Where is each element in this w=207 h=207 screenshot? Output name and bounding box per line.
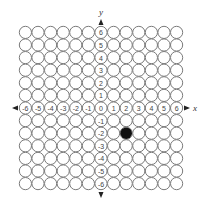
grid-cell [70,178,82,190]
grid-cell [45,140,57,152]
grid-cell [57,77,69,89]
grid-cell [158,89,170,101]
grid-cell [57,39,69,51]
grid-cell [82,77,94,89]
grid-cell [32,152,44,164]
grid-cell [82,52,94,64]
grid-cell [108,127,120,139]
grid-cell [82,140,94,152]
grid-cell [158,115,170,127]
grid-cell [32,89,44,101]
grid-cell [120,26,132,38]
grid-cell [45,89,57,101]
grid-cell [82,152,94,164]
y-tick-label: -6 [98,181,104,188]
grid-cell [45,39,57,51]
y-tick-label: -2 [98,130,104,137]
grid-cell [120,178,132,190]
grid-cell [57,52,69,64]
grid-cell [158,52,170,64]
grid-cell [57,26,69,38]
grid-cell [108,64,120,76]
grid-cell [45,26,57,38]
grid-cell [145,127,157,139]
grid-cell [120,115,132,127]
grid-cell [57,89,69,101]
y-tick-label: 2 [99,80,103,87]
grid-cell [82,89,94,101]
grid-cell [171,165,183,177]
grid-cell [70,152,82,164]
y-axis-up-arrow-icon [99,19,104,25]
grid-cell [32,26,44,38]
grid-cell [45,165,57,177]
grid-cell [145,26,157,38]
grid-cell [57,165,69,177]
grid-cell [108,152,120,164]
grid-cell [32,39,44,51]
grid-cell [108,26,120,38]
x-tick-label: 5 [162,105,166,112]
grid-cell [70,115,82,127]
grid-cell [158,140,170,152]
grid-cell [45,52,57,64]
grid-cell [45,127,57,139]
grid-cell [57,115,69,127]
grid-cell [32,178,44,190]
grid-cell [57,152,69,164]
grid-cell [19,64,31,76]
grid-cell [171,115,183,127]
grid-cell [32,140,44,152]
grid-cell [133,152,145,164]
grid-cell [171,52,183,64]
grid-cell [145,64,157,76]
grid-cell [171,127,183,139]
grid-cell [171,39,183,51]
x-tick-label: 1 [112,105,116,112]
y-tick-label: -5 [98,168,104,175]
grid-cell [171,152,183,164]
grid-cell [120,165,132,177]
x-tick-label: -1 [85,105,91,112]
grid-cell [82,64,94,76]
coordinate-grid: -6-5-4-3-2-10123456654321-1-2-3-4-5-6xy [0,0,207,207]
grid-cell [108,77,120,89]
grid-cell [108,178,120,190]
y-axis-label: y [98,7,103,17]
y-tick-label: 5 [99,42,103,49]
grid-cell [70,140,82,152]
grid-cell [70,39,82,51]
grid-cell [45,64,57,76]
grid-cell [70,89,82,101]
grid-cell [120,140,132,152]
grid-cell [19,127,31,139]
grid-cell [120,39,132,51]
x-tick-label: 2 [124,105,128,112]
grid-cell [133,165,145,177]
x-tick-label: -3 [60,105,66,112]
grid-cell [70,64,82,76]
grid-cell [32,64,44,76]
grid-cell [133,140,145,152]
y-tick-label: 3 [99,67,103,74]
grid-cell [32,52,44,64]
y-tick-label: -3 [98,143,104,150]
x-tick-label: -5 [35,105,41,112]
x-axis-left-arrow-icon [12,106,18,111]
x-tick-label: 4 [149,105,153,112]
grid-cell [171,178,183,190]
grid-cell [145,77,157,89]
grid-cell [82,39,94,51]
grid-cell [108,39,120,51]
x-tick-label: -2 [73,105,79,112]
grid-cell [32,77,44,89]
grid-cell [45,115,57,127]
x-tick-label: 0 [99,105,103,112]
grid-cell [57,127,69,139]
grid-cell [133,77,145,89]
grid-cell [120,52,132,64]
grid-cell [158,127,170,139]
grid-cell [133,64,145,76]
grid-cell [19,77,31,89]
grid-cell [145,39,157,51]
